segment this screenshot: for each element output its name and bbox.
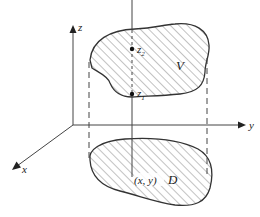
point-z2-icon [130, 47, 134, 51]
solid-region-v [90, 24, 209, 97]
x-axis-arrow-icon [12, 162, 21, 171]
x-axis-label: x [21, 163, 27, 175]
y-axis-arrow-icon [238, 122, 246, 129]
y-axis: y [73, 119, 254, 131]
y-axis-label: y [248, 119, 254, 131]
x-axis: x [12, 125, 73, 175]
label-base-point: (x, y) [134, 174, 157, 187]
triple-integral-diagram: z y x z2 z1 V D (x, y) [0, 0, 260, 217]
z-axis: z [70, 21, 84, 125]
z-axis-arrow-icon [70, 25, 77, 33]
base-region-d [90, 138, 212, 205]
z-axis-label: z [77, 21, 83, 33]
label-d: D [167, 172, 178, 187]
point-z1-icon [130, 92, 134, 96]
